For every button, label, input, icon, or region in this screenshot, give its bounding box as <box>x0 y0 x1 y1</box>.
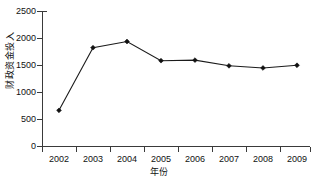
data-point-2009 <box>295 63 300 68</box>
series-line <box>59 42 297 111</box>
series-markers <box>57 39 300 113</box>
data-point-2003 <box>91 45 96 50</box>
data-point-2007 <box>227 63 232 68</box>
data-point-2008 <box>261 66 266 71</box>
series-layer <box>0 0 318 185</box>
data-point-2006 <box>193 58 198 63</box>
data-point-2002 <box>57 108 62 113</box>
data-point-2004 <box>125 39 130 44</box>
line-chart: 财政资金投入 2500 2000 1500 1000 500 0 2002 20… <box>0 0 318 185</box>
data-point-2005 <box>159 58 164 63</box>
